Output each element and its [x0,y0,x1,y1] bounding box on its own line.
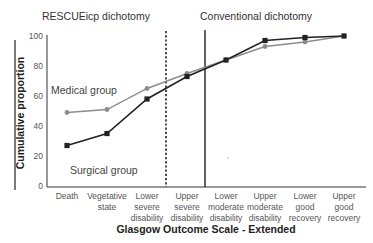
region-label-rescueicp: RESCUEicp dichotomy [42,10,151,22]
region-label-conventional: Conventional dichotomy [200,10,313,22]
data-point-surgical [223,57,228,62]
x-category-label: disability [249,213,282,223]
y-tick-label: 40 [34,121,44,131]
data-point-surgical [262,38,267,43]
y-tick-label: 100 [29,31,43,41]
data-point-surgical [144,96,149,101]
data-point-medical [105,107,110,112]
x-category-label: Death [56,191,79,201]
y-tick-label: 20 [34,151,44,161]
x-category-label: Lower [135,191,158,201]
y-tick-label: 80 [34,61,44,71]
data-point-surgical [302,35,307,40]
x-category-label: recovery [289,213,322,223]
x-category-label: Vegetative [87,191,127,201]
data-point-medical [263,44,268,49]
x-category-label: Lower [214,191,237,201]
x-category-label: disability [171,213,204,223]
x-category-label: severe [174,202,200,212]
x-category-label: state [98,202,117,212]
y-axis-title-group: Cumulative proportion [14,40,26,190]
x-category-label: good [296,202,315,212]
chart: Cumulative proportion 020406080100 RESCU… [0,0,373,243]
data-point-surgical [341,33,346,38]
x-category-labels: DeathVegetativestateLowerseveredisabilit… [56,191,361,223]
x-category-label: disability [210,213,243,223]
y-tick-labels: 020406080100 [29,31,43,191]
series-label-medical: Medical group [51,84,117,96]
data-point-medical [65,110,70,115]
x-category-label: Lower [293,191,316,201]
x-category-label: moderate [247,202,283,212]
x-category-label: severe [134,202,160,212]
x-axis-title: Glasgow Outcome Scale - Extended [116,223,295,235]
data-point-medical [303,40,308,45]
artifact-dot [227,157,229,159]
data-point-surgical [184,74,189,79]
data-point-medical [145,86,150,91]
y-axis-title: Cumulative proportion [14,57,26,170]
x-category-label: moderate [208,202,244,212]
x-category-label: good [335,202,354,212]
x-category-label: Upper [332,191,355,201]
series-label-surgical: Surgical group [70,164,138,176]
x-category-label: Upper [175,191,198,201]
y-tick-label: 0 [38,181,43,191]
data-point-surgical [104,131,109,136]
x-category-label: Upper [253,191,276,201]
y-tick-label: 60 [34,91,44,101]
x-category-label: recovery [328,213,361,223]
data-point-surgical [64,143,69,148]
x-category-label: disability [131,213,164,223]
